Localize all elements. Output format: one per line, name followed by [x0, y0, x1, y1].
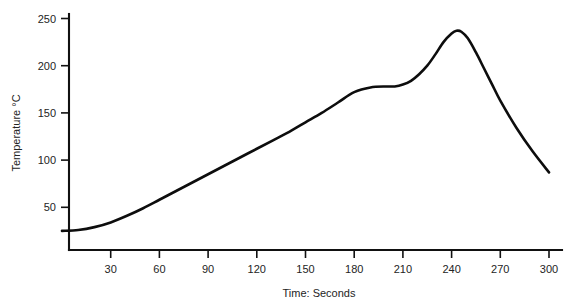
y-tick-label-200: 200: [38, 60, 56, 72]
temperature-curve: [62, 31, 549, 231]
chart-plot-area: 250 200 150 100 50 30 60 90 120 150 18: [0, 0, 569, 305]
x-tick-label-300: 300: [540, 263, 558, 275]
y-tick-label-150: 150: [38, 107, 56, 119]
reflow-profile-chart: 250 200 150 100 50 30 60 90 120 150 18: [0, 0, 569, 305]
x-axis-ticks: [111, 250, 549, 258]
y-axis-title: Temperature °C: [10, 94, 22, 171]
y-tick-label-250: 250: [38, 13, 56, 25]
x-tick-label-270: 270: [491, 263, 509, 275]
x-tick-label-60: 60: [153, 263, 165, 275]
x-tick-label-90: 90: [202, 263, 214, 275]
x-tick-label-150: 150: [296, 263, 314, 275]
y-axis-tick-labels: 250 200 150 100 50: [38, 13, 56, 214]
y-tick-label-100: 100: [38, 154, 56, 166]
y-tick-label-50: 50: [44, 201, 56, 213]
y-axis-ticks: [61, 19, 69, 208]
x-tick-label-180: 180: [345, 263, 363, 275]
x-axis-title: Time: Seconds: [283, 287, 356, 299]
x-tick-label-240: 240: [442, 263, 460, 275]
x-tick-label-120: 120: [248, 263, 266, 275]
x-axis-tick-labels: 30 60 90 120 150 180 210 240 270 300: [105, 263, 559, 275]
x-tick-label-210: 210: [394, 263, 412, 275]
x-tick-label-30: 30: [105, 263, 117, 275]
